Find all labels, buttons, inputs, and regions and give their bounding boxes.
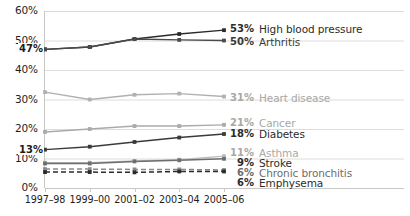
data-point-marker [222,170,226,174]
data-point-marker [88,45,92,49]
data-point-marker [222,95,226,99]
data-point-marker [133,37,137,41]
legend-label-8: Emphysema [259,177,323,189]
legend-label-4: Diabetes [259,128,305,140]
series-lines [45,30,224,172]
legend-value-4: 18% [228,128,254,139]
x-axis-tick-label: 2005–06 [194,194,254,205]
y-axis-tick-label: 40% [0,63,38,75]
data-point-marker [177,124,181,128]
data-point-marker [43,90,47,94]
data-point-marker [133,124,137,128]
data-point-marker [177,136,181,140]
y-axis-tick-label: 60% [0,4,38,16]
data-point-marker [88,98,92,102]
line-chart: 0%10%20%30%40%50%60% 1997–981999–002001–… [0,0,410,216]
legend-value-2: 31% [228,92,254,103]
legend-value-8: 6% [228,177,254,188]
data-point-marker [133,140,137,144]
data-point-marker [177,38,181,42]
legend-label-1: Arthritis [259,36,300,48]
data-point-marker [133,160,137,164]
annotation-value: 47% [18,43,44,54]
data-point-marker [88,162,92,166]
annotation-value: 13% [18,144,44,155]
data-point-marker [177,158,181,162]
data-point-marker [88,170,92,174]
legend-label-2: Heart disease [259,92,330,104]
data-point-marker [133,93,137,97]
y-axis-tick-label: 30% [0,93,38,105]
data-point-marker [222,39,226,43]
data-point-marker [43,130,47,134]
y-axis-tick-label: 0% [0,181,38,193]
y-axis-tick-label: 20% [0,122,38,134]
data-point-marker [88,127,92,131]
data-point-marker [133,170,137,174]
data-point-marker [177,92,181,96]
series-markers [43,28,226,174]
data-point-marker [177,32,181,36]
legend-value-0: 53% [228,23,254,34]
data-point-marker [222,132,226,136]
data-point-marker [222,157,226,161]
legend-value-1: 50% [228,36,254,47]
data-point-marker [88,145,92,149]
data-point-marker [43,162,47,166]
data-point-marker [177,170,181,174]
data-point-marker [43,170,47,174]
legend-label-0: High blood pressure [259,23,362,35]
data-point-marker [222,28,226,32]
legend-value-3: 21% [228,117,254,128]
data-point-marker [222,123,226,127]
